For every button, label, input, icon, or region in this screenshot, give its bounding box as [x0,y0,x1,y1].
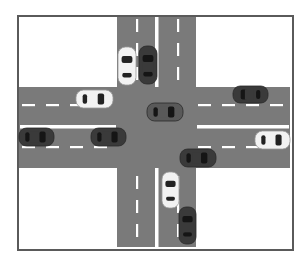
roof [165,187,175,196]
rear-window [83,94,87,103]
intersection-canvas [0,0,305,260]
car-dark-vertical [179,207,196,244]
windshield [165,181,175,187]
rear-window [143,72,152,77]
rear-window [256,90,260,99]
lane-dash [22,104,35,106]
lane-dash [198,146,211,148]
roof [31,132,39,143]
car-dark-horizontal [19,128,54,146]
rear-window [186,153,190,162]
car-mid-horizontal [147,103,183,121]
rear-window [261,135,265,144]
lane-dash [46,104,59,106]
car-dark-horizontal [91,128,126,146]
roof [89,94,98,105]
roof [103,132,111,143]
rear-window [153,107,157,116]
lane-dash [136,224,138,237]
windshield [97,94,104,105]
lane-dash [177,67,179,80]
windshield [143,55,154,62]
lane-dash [270,104,283,106]
roof [182,223,192,233]
lane-dash [198,104,211,106]
center-line-right [197,125,289,129]
intersection-scene [0,0,305,260]
roof [192,153,201,164]
lane-dash [177,19,179,32]
car-dark-vertical [139,46,157,84]
lane-dash [222,146,235,148]
rear-window [25,132,29,141]
car-white-vertical [162,172,179,208]
car-white-horizontal [255,131,290,149]
lane-dash [222,104,235,106]
windshield [275,135,281,146]
lane-dash [136,176,138,189]
lane-dash [177,43,179,56]
rear-window [183,232,192,236]
windshield [111,132,117,143]
roof [245,89,253,99]
roof [159,107,168,118]
car-dark-horizontal [180,149,216,167]
lane-dash [46,146,59,148]
rear-window [166,196,175,200]
car-white-horizontal [76,90,113,108]
lane-dash [246,104,259,106]
rear-window [122,73,131,78]
windshield [39,132,45,143]
roof [122,63,133,73]
roof [143,62,154,72]
car-white-vertical [118,47,136,85]
lane-dash [136,19,138,32]
lane-dash [70,146,83,148]
center-line-bottom [155,168,159,247]
car-dark-horizontal [233,86,268,103]
roof [267,135,275,146]
windshield [201,153,207,164]
windshield [168,107,174,118]
windshield [122,56,133,63]
windshield [182,216,192,223]
rear-window [97,132,101,141]
lane-dash [136,200,138,213]
